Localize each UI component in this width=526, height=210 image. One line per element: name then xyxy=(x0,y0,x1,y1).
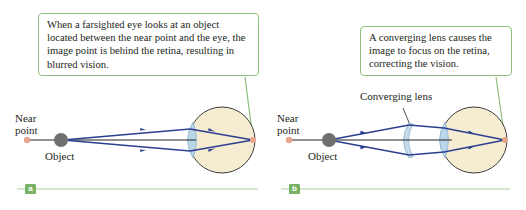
eyeball-a xyxy=(189,107,255,173)
lens-label-pointer xyxy=(403,108,410,125)
panel-tag-b: b xyxy=(289,184,300,194)
near-point-label-b: Near point xyxy=(277,112,300,136)
near-point-dot-a xyxy=(24,137,30,143)
converging-lens-label: Converging lens xyxy=(360,90,432,102)
panel-a-graphics xyxy=(17,77,258,189)
near-point-label-a: Near point xyxy=(15,112,38,136)
callout-b: A converging lens causes the image to fo… xyxy=(360,26,512,76)
callout-b-text: A converging lens causes the image to fo… xyxy=(369,32,492,69)
panel-tag-a: a xyxy=(25,184,36,194)
object-dot-a xyxy=(54,133,68,147)
object-dot-b xyxy=(322,133,336,147)
image-point-b xyxy=(502,137,508,143)
object-label-a: Object xyxy=(45,150,74,162)
object-label-b: Object xyxy=(308,150,337,162)
callout-a: When a farsighted eye looks at an object… xyxy=(38,13,259,76)
callout-a-text: When a farsighted eye looks at an object… xyxy=(47,19,246,70)
image-point-a xyxy=(250,137,256,143)
near-point-dot-b xyxy=(286,137,292,143)
